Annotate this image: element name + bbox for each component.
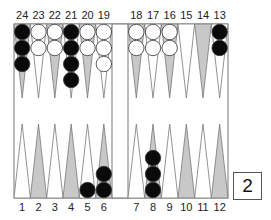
- point-label: 5: [79, 201, 97, 213]
- point-label: 8: [144, 201, 162, 213]
- white-checker[interactable]: [96, 40, 111, 55]
- point-label: 4: [62, 201, 80, 213]
- black-checker[interactable]: [80, 182, 95, 197]
- point-label: 14: [194, 9, 212, 21]
- black-checker[interactable]: [63, 72, 78, 87]
- white-checker[interactable]: [162, 40, 177, 55]
- white-checker[interactable]: [31, 24, 46, 39]
- point-label: 17: [144, 9, 162, 21]
- black-checker[interactable]: [145, 182, 160, 197]
- white-checker[interactable]: [96, 24, 111, 39]
- point-label: 16: [161, 9, 179, 21]
- point-label: 19: [95, 9, 113, 21]
- bar[interactable]: [112, 24, 128, 198]
- point-label: 9: [161, 201, 179, 213]
- doubling-cube[interactable]: 2: [233, 172, 262, 200]
- point-label: 1: [13, 201, 31, 213]
- white-checker[interactable]: [31, 40, 46, 55]
- black-checker[interactable]: [212, 40, 227, 55]
- black-checker[interactable]: [63, 24, 78, 39]
- doubling-cube-value: 2: [242, 175, 253, 197]
- backgammon-board: [0, 0, 271, 220]
- black-checker[interactable]: [14, 24, 29, 39]
- white-checker[interactable]: [145, 40, 160, 55]
- point-label: 13: [211, 9, 229, 21]
- point-label: 12: [211, 201, 229, 213]
- point-label: 18: [127, 9, 145, 21]
- point-label: 10: [177, 201, 195, 213]
- point-label: 6: [95, 201, 113, 213]
- black-checker[interactable]: [145, 150, 160, 165]
- point-label: 7: [127, 201, 145, 213]
- point-label: 22: [46, 9, 64, 21]
- point-label: 3: [46, 201, 64, 213]
- black-checker[interactable]: [145, 166, 160, 181]
- white-checker[interactable]: [47, 24, 62, 39]
- white-checker[interactable]: [47, 40, 62, 55]
- point-label: 20: [79, 9, 97, 21]
- white-checker[interactable]: [80, 40, 95, 55]
- black-checker[interactable]: [63, 40, 78, 55]
- white-checker[interactable]: [145, 24, 160, 39]
- point-label: 21: [62, 9, 80, 21]
- white-checker[interactable]: [96, 56, 111, 71]
- black-checker[interactable]: [63, 56, 78, 71]
- black-checker[interactable]: [14, 56, 29, 71]
- point-label: 11: [194, 201, 212, 213]
- backgammon-board-area: 242322212019181716151413123456789101112 …: [0, 0, 271, 220]
- point-label: 2: [30, 201, 48, 213]
- black-checker[interactable]: [14, 40, 29, 55]
- white-checker[interactable]: [80, 24, 95, 39]
- black-checker[interactable]: [96, 182, 111, 197]
- point-label: 24: [13, 9, 31, 21]
- black-checker[interactable]: [212, 24, 227, 39]
- white-checker[interactable]: [129, 24, 144, 39]
- point-label: 15: [177, 9, 195, 21]
- white-checker[interactable]: [162, 24, 177, 39]
- point-label: 23: [30, 9, 48, 21]
- white-checker[interactable]: [129, 40, 144, 55]
- black-checker[interactable]: [96, 166, 111, 181]
